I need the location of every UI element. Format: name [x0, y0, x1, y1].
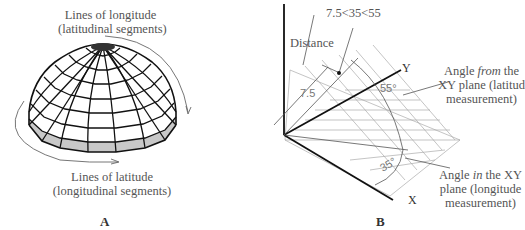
y-axis-label: Y: [402, 61, 411, 75]
in-angle-label: Angle in the XY plane (longitude measure…: [436, 168, 525, 210]
latitude-label-line1: Lines of latitude: [52, 170, 172, 184]
from-angle-label: Angle from the XY plane (latitude measur…: [438, 64, 525, 106]
distance-value: 7.5: [300, 87, 315, 99]
longitude-label-line2: (latitudinal segments): [58, 22, 163, 36]
x-axis-label: X: [408, 193, 417, 207]
panel-b-spherical-coordinates: Y X 7.5 55° 35° 7.5<35<55 Distance Angle…: [260, 0, 525, 230]
longitude-label-line1: Lines of longitude: [58, 8, 163, 22]
panel-letter-b: B: [376, 214, 385, 230]
coordinate-input-label: 7.5<35<55: [326, 6, 381, 20]
longitude-label: Lines of longitude (latitudinal segments…: [58, 8, 163, 36]
latitude-label: Lines of latitude (longitudinal segments…: [52, 170, 172, 198]
latitude-angle: 55°: [380, 82, 397, 94]
panel-letter-a: A: [100, 214, 109, 230]
latitude-label-line2: (longitudinal segments): [52, 184, 172, 198]
panel-a-hemisphere: Lines of longitude (latitudinal segments…: [0, 0, 260, 230]
distance-label: Distance: [290, 36, 334, 50]
